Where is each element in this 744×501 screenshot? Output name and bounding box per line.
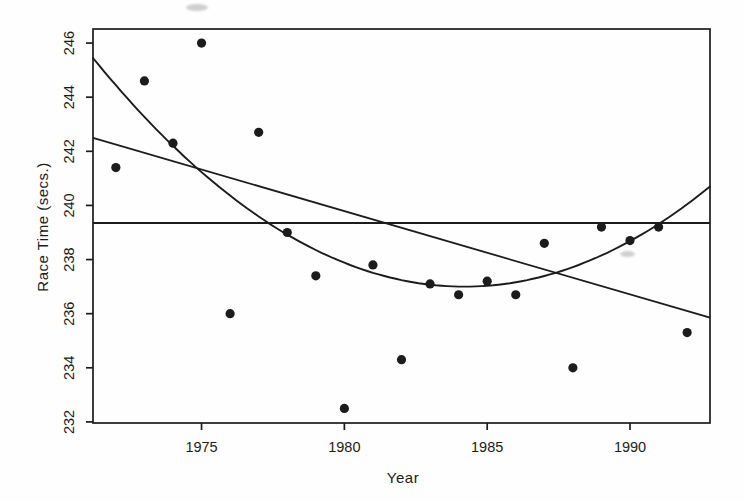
y-tick-label: 242: [61, 139, 77, 163]
data-point: [540, 239, 549, 248]
scan-smudge-artifact: [186, 4, 208, 11]
scan-smudge-artifact: [620, 251, 635, 257]
data-point: [283, 228, 292, 237]
x-axis-title: Year: [387, 469, 419, 486]
data-point: [483, 277, 492, 286]
x-tick-label: 1980: [328, 439, 360, 455]
data-point: [654, 222, 663, 231]
data-point: [454, 290, 463, 299]
x-tick-label: 1975: [185, 439, 217, 455]
y-tick-label: 236: [61, 302, 77, 326]
data-point: [111, 163, 120, 172]
y-tick-label: 244: [61, 85, 77, 109]
data-point: [625, 236, 634, 245]
race-time-scatter-figure: 1975198019851990232234236238240242244246…: [0, 0, 744, 501]
data-point: [397, 355, 406, 364]
data-point: [197, 38, 206, 47]
quadratic-fit: [93, 58, 710, 287]
y-tick-label: 238: [61, 247, 77, 271]
y-tick-label: 246: [61, 31, 77, 55]
y-tick-label: 240: [61, 193, 77, 217]
scatter-plot-canvas: 1975198019851990232234236238240242244246: [0, 0, 744, 501]
data-point: [425, 279, 434, 288]
data-point: [226, 309, 235, 318]
data-point: [340, 404, 349, 413]
x-tick-label: 1985: [471, 439, 503, 455]
linear-fit: [93, 138, 710, 318]
data-point: [683, 328, 692, 337]
data-point: [168, 139, 177, 148]
data-point: [311, 271, 320, 280]
y-tick-label: 232: [61, 410, 77, 434]
data-point: [254, 128, 263, 137]
data-point: [368, 260, 377, 269]
data-point: [597, 222, 606, 231]
data-point: [140, 76, 149, 85]
x-tick-label: 1990: [614, 439, 646, 455]
y-axis-title: Race Time (secs.): [34, 162, 51, 291]
data-point: [568, 363, 577, 372]
y-tick-label: 234: [61, 356, 77, 380]
data-point: [511, 290, 520, 299]
